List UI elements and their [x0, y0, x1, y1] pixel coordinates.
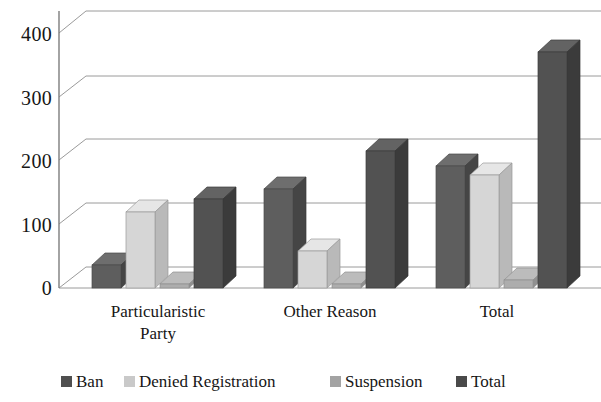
- bar-denied-registration-particularistic-party: [126, 200, 168, 288]
- legend: Ban Denied Registration Suspension Total: [61, 372, 506, 391]
- legend-swatch-ban: [61, 376, 72, 387]
- bar-denied-registration-other-reason: [298, 239, 340, 288]
- bar-total-total: [538, 40, 580, 288]
- legend-swatch-denied-registration: [124, 376, 135, 387]
- y-tick-label: 0: [42, 277, 52, 299]
- bar-group-total: [436, 40, 580, 288]
- x-tick-label-particularistic-line2: Party: [140, 324, 176, 343]
- bar-group-other-reason: [264, 139, 408, 288]
- x-axis-tick-labels: Particularistic Party Other Reason Total: [111, 302, 515, 343]
- bar-chart: 400 300 200 100 0: [0, 0, 601, 402]
- legend-item-total[interactable]: Total: [456, 372, 506, 391]
- y-tick-label: 100: [21, 214, 52, 236]
- legend-swatch-suspension: [330, 376, 341, 387]
- chart-canvas: 400 300 200 100 0: [0, 0, 601, 402]
- x-tick-label-other-reason: Other Reason: [283, 302, 377, 321]
- bar-total-other-reason: [366, 139, 408, 288]
- legend-label-total: Total: [471, 372, 506, 391]
- y-axis-tick-labels: 400 300 200 100 0: [21, 23, 52, 299]
- bar-total-particularistic-party: [194, 187, 236, 288]
- y-tick-label: 200: [21, 150, 52, 172]
- gridline-200: [59, 139, 601, 160]
- y-tick-label: 300: [21, 87, 52, 109]
- legend-item-ban[interactable]: Ban: [61, 372, 104, 391]
- legend-swatch-total: [456, 376, 467, 387]
- legend-label-ban: Ban: [76, 372, 104, 391]
- legend-label-denied-registration: Denied Registration: [139, 372, 276, 391]
- y-tick-label: 400: [21, 23, 52, 45]
- bar-group-particularistic-party: [92, 187, 236, 288]
- legend-item-denied-registration[interactable]: Denied Registration: [124, 372, 276, 391]
- legend-label-suspension: Suspension: [345, 372, 423, 391]
- x-tick-label-total: Total: [480, 302, 515, 321]
- legend-item-suspension[interactable]: Suspension: [330, 372, 423, 391]
- bar-denied-registration-total: [470, 163, 512, 288]
- gridline-400: [59, 11, 601, 33]
- gridline-300: [59, 76, 601, 97]
- x-tick-label-particularistic-line1: Particularistic: [111, 302, 206, 321]
